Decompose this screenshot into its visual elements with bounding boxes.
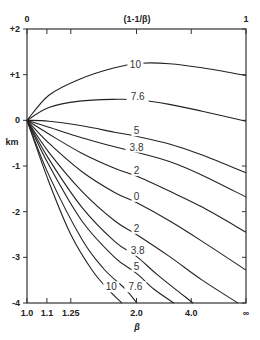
- curve-labels: 107.653.82023.857.610: [103, 59, 148, 292]
- x-tick-label: 2.0: [130, 308, 143, 318]
- curve-10-lower-: [27, 120, 122, 303]
- x-axis-title: β: [133, 322, 140, 332]
- curve-label: 2: [134, 223, 140, 234]
- curve-label: 10: [130, 59, 142, 70]
- x-tick-label: ∞: [243, 308, 250, 318]
- curve-label: 7.6: [128, 281, 142, 292]
- curve-label: 5: [134, 261, 140, 272]
- top-axis-left-label: 0: [24, 14, 29, 24]
- y-axis-title: km: [5, 137, 18, 147]
- y-tick-label: +2: [10, 24, 20, 34]
- y-tick-label: -3: [12, 252, 20, 262]
- curve-label: 10: [106, 281, 118, 292]
- top-axis-right-label: 1: [243, 14, 248, 24]
- curve-label: 7.6: [131, 91, 145, 102]
- chart: +2+10-1-2-3-41.01.11.252.04.0∞ 107.653.8…: [0, 0, 260, 340]
- x-tick-label: 1.0: [21, 308, 34, 318]
- top-axis-title: (1-1/β): [124, 14, 151, 24]
- curve-label: 3.8: [131, 245, 145, 256]
- y-tick-label: -2: [12, 207, 20, 217]
- y-tick-label: +1: [10, 70, 20, 80]
- curve-label: 5: [134, 125, 140, 136]
- x-tick-label: 1.1: [41, 308, 54, 318]
- x-tick-label: 1.25: [62, 308, 80, 318]
- y-tick-label: -1: [12, 161, 20, 171]
- y-tick-label: -4: [12, 298, 20, 308]
- curve-label: 0: [134, 191, 140, 202]
- y-tick-label: 0: [15, 115, 20, 125]
- curve-label: 2: [134, 165, 140, 176]
- curve-7-6-upper-: [27, 99, 246, 121]
- curve-7-6-lower-: [27, 120, 137, 303]
- curve-5-lower-: [27, 120, 174, 303]
- curve-label: 3.8: [130, 142, 144, 153]
- x-tick-label: 4.0: [185, 308, 198, 318]
